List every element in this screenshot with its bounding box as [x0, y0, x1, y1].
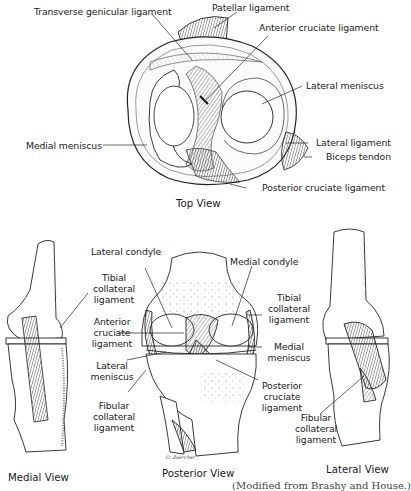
label-lateral-condyle: Lateral condyle [91, 246, 161, 257]
label-line: meniscus [84, 371, 140, 382]
label-lateral-meniscus-top: Lateral meniscus [306, 80, 384, 91]
label-line: cruciate [84, 327, 140, 338]
label-line: collateral [86, 283, 142, 294]
label-line: collateral [286, 423, 346, 434]
label-line: Medial [262, 341, 316, 352]
label-patellar-ligament: Patellar ligament [212, 2, 289, 13]
label-medial-condyle: Medial condyle [230, 256, 298, 267]
label-line: ligament [84, 338, 140, 349]
figure-caption: (Modified from Brashy and House.) [232, 480, 411, 491]
label-biceps-tendon: Biceps tendon [326, 151, 391, 162]
label-line: Posterior [252, 380, 312, 391]
label-line: collateral [86, 411, 142, 422]
title-lateral-view: Lateral View [326, 464, 389, 476]
label-fibular-collateral-ligament-lateral: Fibular collateral ligament [286, 412, 346, 445]
label-fibular-collateral-ligament-posterior: Fibular collateral ligament [86, 400, 142, 433]
label-line: collateral [262, 303, 316, 314]
label-line: ligament [286, 434, 346, 445]
label-line: Tibial [86, 272, 142, 283]
label-line: ligament [86, 294, 142, 305]
label-transverse-genicular-ligament: Transverse genicular ligament [34, 6, 171, 17]
label-lateral-ligament: Lateral ligament [316, 137, 391, 148]
label-anterior-cruciate-ligament-posterior: Anterior cruciate ligament [84, 316, 140, 349]
label-line: Anterior [84, 316, 140, 327]
title-top-view: Top View [176, 198, 221, 210]
label-line: ligament [86, 422, 142, 433]
label-line: Lateral [84, 360, 140, 371]
posterior-view-drawing [142, 252, 258, 456]
label-tibial-collateral-ligament-left: Tibial collateral ligament [86, 272, 142, 305]
label-posterior-cruciate-ligament-posterior: Posterior cruciate ligament [252, 380, 312, 413]
label-lateral-meniscus-posterior: Lateral meniscus [84, 360, 140, 382]
top-view-drawing [127, 17, 308, 185]
label-tibial-collateral-ligament-right: Tibial collateral ligament [262, 292, 316, 325]
label-line: cruciate [252, 391, 312, 402]
label-line: Fibular [86, 400, 142, 411]
label-line: meniscus [262, 352, 316, 363]
label-line: ligament [262, 314, 316, 325]
artist-signature: O. Zuercher [166, 455, 196, 460]
title-medial-view: Medial View [8, 472, 69, 484]
medial-view-drawing [6, 240, 68, 452]
label-medial-meniscus-posterior: Medial meniscus [262, 341, 316, 363]
label-line: Tibial [262, 292, 316, 303]
label-anterior-cruciate-ligament-top: Anterior cruciate ligament [259, 22, 379, 33]
label-medial-meniscus-top: Medial meniscus [26, 140, 102, 151]
label-line: Fibular [286, 412, 346, 423]
title-posterior-view: Posterior View [162, 468, 234, 480]
label-posterior-cruciate-ligament-top: Posterior cruciate ligament [262, 182, 385, 193]
